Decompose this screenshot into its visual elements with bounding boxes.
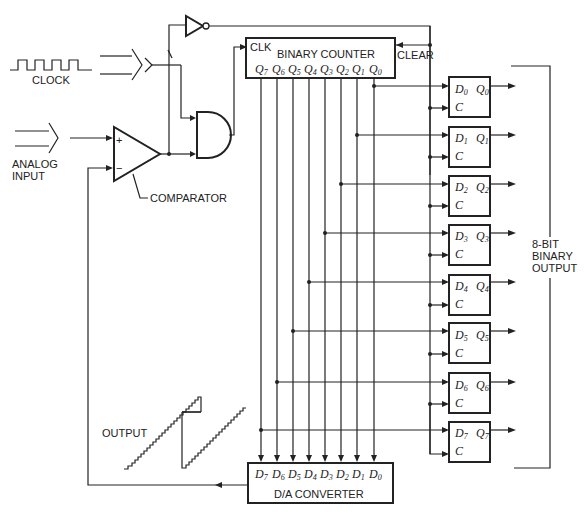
svg-text:C: C [455, 149, 464, 163]
binary-output-label-1: 8-BIT [532, 238, 559, 250]
latch-5: D5 Q5 C [449, 323, 516, 363]
clock-input-chevron [145, 58, 152, 72]
adc-block-diagram: CLOCK ANALOG INPUT + − COMPARATOR CLK [0, 0, 584, 515]
binary-output-label-2: BINARY [532, 250, 573, 262]
counter-clk-label: CLK [250, 41, 272, 53]
comparator-label: COMPARATOR [150, 192, 227, 204]
da-converter-title: D/A CONVERTER [274, 488, 364, 500]
latch-6: D6 Q6 C [449, 373, 516, 413]
comparator-plus-label: + [116, 134, 122, 146]
analog-hollow-arrow-icon [15, 123, 58, 153]
latch-0: D0 Q0 C [449, 77, 516, 117]
counter-title: BINARY COUNTER [277, 48, 375, 60]
analog-input-label-2: INPUT [12, 170, 45, 182]
comparator-leader-line [133, 174, 148, 198]
latch-clock-bus [428, 26, 449, 457]
clear-label: CLEAR [397, 49, 434, 61]
latch-2: D2 Q2 C [449, 176, 516, 216]
clock-hollow-arrow-icon [100, 49, 142, 80]
svg-text:C: C [455, 444, 464, 458]
latch-7: D7 Q7 C [449, 422, 516, 462]
output-bracket-bottom [514, 278, 550, 468]
latch-data-taps [259, 83, 449, 433]
analog-input-label-1: ANALOG [12, 158, 58, 170]
and-to-clk-wire [229, 47, 245, 135]
svg-text:C: C [455, 297, 464, 311]
latch-3: D3 Q3 C [449, 225, 516, 265]
clock-waveform-icon [10, 60, 92, 70]
output-bracket-top [511, 66, 550, 237]
svg-text:C: C [455, 346, 464, 360]
clock-label: CLOCK [32, 74, 71, 86]
and-gate-symbol [197, 112, 231, 158]
svg-text:C: C [455, 247, 464, 261]
latch-1: D1 Q1 C [449, 127, 516, 167]
output-waveform-label: OUTPUT [102, 427, 148, 439]
svg-text:C: C [455, 198, 464, 212]
comparator-minus-label: − [116, 162, 122, 174]
binary-output-label-3: OUTPUT [532, 262, 578, 274]
latch-4: D4 Q4 C [449, 275, 516, 315]
comparator-to-inverter-wire [169, 25, 185, 154]
clock-to-and-wire [181, 65, 190, 118]
inverter-symbol [186, 16, 203, 36]
svg-text:C: C [455, 396, 464, 410]
svg-text:C: C [455, 100, 464, 114]
bus-lines [258, 78, 377, 462]
